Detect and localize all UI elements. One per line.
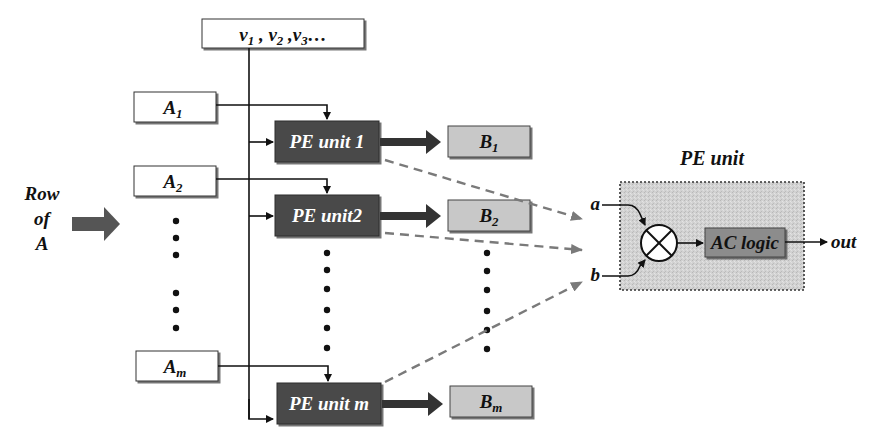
a1-to-pe1-arrow [216,105,327,119]
a-box-m: Am [136,351,218,381]
bus-to-pem-arrow [249,399,273,419]
svg-text:of: of [34,208,52,229]
svg-text:A: A [35,233,49,254]
a-box-1: A1 [134,92,216,122]
svg-text:PE unit m: PE unit m [288,393,369,414]
svg-text:Row: Row [24,183,60,204]
a2-to-pe2-arrow [216,179,327,193]
pe1-to-b1-arrow [380,130,441,154]
b-ellipsis-dots [484,250,490,352]
svg-text:AC logic: AC logic [710,232,780,253]
vector-input-box: v1 , v2 ,v3… [202,19,364,48]
pe-unit-2: PE unit2 [275,195,379,236]
pe-unit-1: PE unit 1 [275,121,379,162]
svg-text:PE unit 1: PE unit 1 [289,131,365,152]
svg-text:PE unit2: PE unit2 [291,205,363,226]
pem-to-bm-arrow [382,392,443,416]
am-to-pem-arrow [218,366,328,381]
pe2-detail-dashed-line [385,233,582,250]
row-of-a-label: Row of A [24,183,60,254]
b-box-m: Bm [450,386,532,417]
pem-detail-dashed-line [385,282,582,382]
b-box-1: B1 [448,126,530,157]
pe-ellipsis-dots [324,250,330,351]
pe-array-diagram: v1 , v2 ,v3… A1 A2 Am PE unit 1 PE unit2… [0,0,876,442]
input-a-label: a [591,193,601,214]
pe-unit-m: PE unit m [277,383,381,424]
multiplier-icon [641,225,677,261]
input-b-label: b [591,264,601,285]
pe-detail-title: PE unit [679,147,745,169]
row-input-arrow [72,207,120,241]
ac-logic-box: AC logic [705,228,785,257]
output-label: out [831,231,857,252]
a-box-2: A2 [134,166,216,196]
pe2-to-b2-arrow [380,204,441,228]
b-box-2: B2 [448,200,530,231]
a-ellipsis-dots [173,218,179,331]
